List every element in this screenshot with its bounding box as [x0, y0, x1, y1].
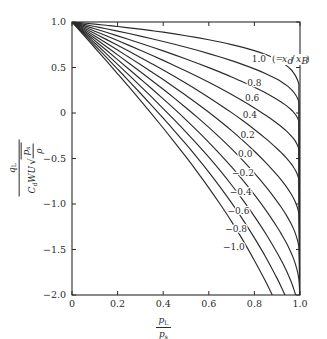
curve-label--1.0: −1.0	[223, 242, 245, 252]
y-tick-label: 1.0	[51, 16, 66, 27]
curve-label--0.6: −0.6	[228, 206, 250, 216]
curve-label--0.4: −0.4	[230, 187, 252, 197]
curve-label-0.8: 0.8	[247, 78, 262, 88]
curve-label-group: 1.01.00.80.80.60.60.40.40.20.20.00.0−0.2…	[223, 54, 319, 251]
curve-label-0.2: 0.2	[240, 130, 254, 140]
curve-label-0.6: 0.6	[245, 93, 260, 103]
y-tick-label: −1.5	[43, 244, 66, 255]
y-tick-label: 0.5	[51, 62, 66, 73]
x-tick-label: 0.2	[110, 298, 125, 309]
x-axis-ticks: 00.20.40.60.81.0	[69, 22, 308, 309]
y-tick-label: 0	[60, 107, 66, 118]
curve-label--0.8: −0.8	[225, 224, 247, 234]
legend-close-paren: )	[306, 54, 310, 64]
x-tick-label: 0.8	[247, 298, 262, 309]
curve-label-0.4: 0.4	[243, 110, 258, 120]
curve-label--0.2: −0.2	[232, 168, 254, 178]
curve--0.8	[72, 22, 300, 339]
chart-figure: 00.20.40.60.81.0 1.00.50−0.5−1.0−1.5−2.0…	[0, 0, 327, 339]
legend-xb: x	[296, 54, 301, 64]
load-flow-plot: 00.20.40.60.81.0 1.00.50−0.5−1.0−1.5−2.0…	[0, 0, 327, 339]
curve-label-0.0: 0.0	[238, 149, 253, 159]
x-tick-label: 1.0	[292, 298, 307, 309]
x-tick-label: 0.6	[201, 298, 216, 309]
y-tick-label: −2.0	[43, 289, 66, 300]
y-tick-label: −1.0	[43, 198, 66, 209]
curve--1.0	[72, 22, 300, 339]
legend-xd: x	[282, 54, 287, 64]
curve-label-1.0: 1.0	[252, 54, 267, 64]
curve-group	[72, 22, 300, 339]
curve-legend-annotation: (=xd/xB)	[271, 54, 319, 66]
x-tick-label: 0.4	[156, 298, 171, 309]
x-tick-label: 0	[69, 298, 75, 309]
curve--0.6	[72, 22, 300, 312]
y-tick-label: −0.5	[43, 153, 66, 164]
